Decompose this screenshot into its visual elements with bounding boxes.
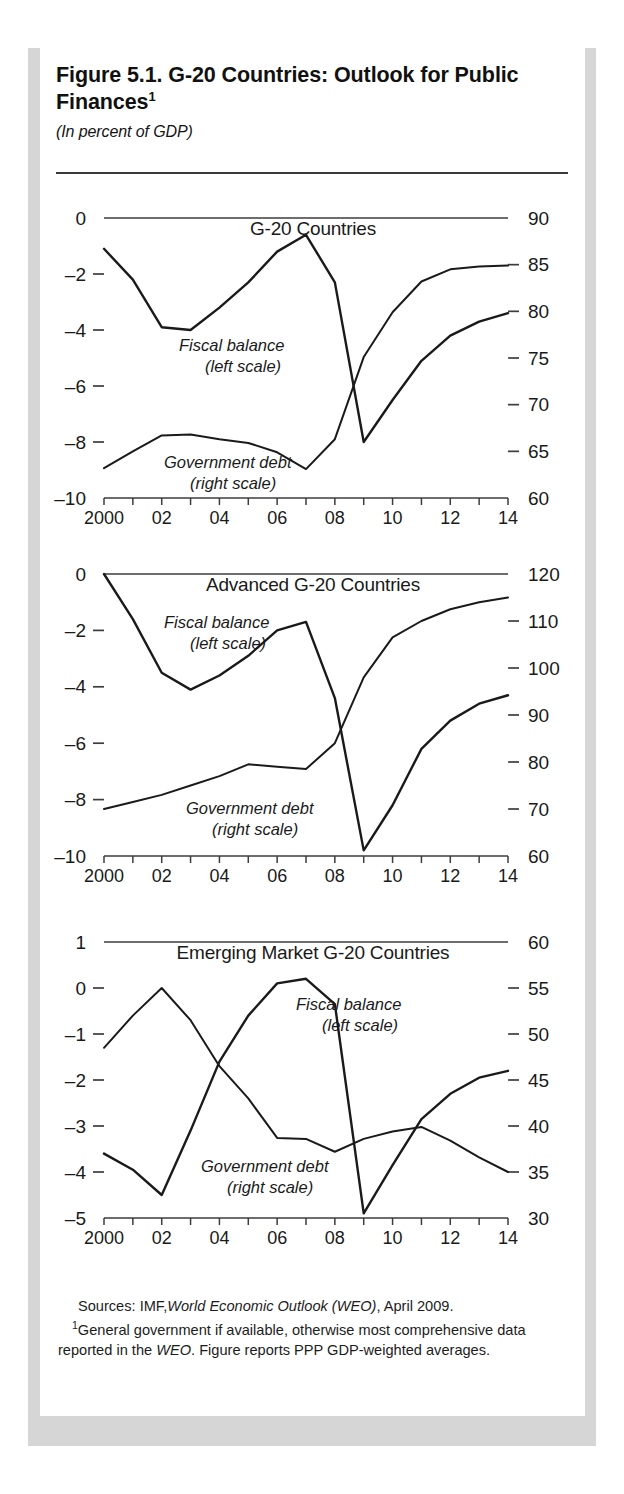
series-line-government-debt bbox=[104, 988, 508, 1172]
figure-footnotes: Sources: IMF,World Economic Outlook (WEO… bbox=[58, 1296, 558, 1361]
y-tick-label-right: 30 bbox=[528, 1208, 549, 1229]
government-debt-label: Government debt bbox=[201, 1157, 330, 1175]
x-tick-label: 10 bbox=[383, 508, 403, 528]
sources-publication: World Economic Outlook (WEO) bbox=[167, 1298, 376, 1314]
x-tick-label: 06 bbox=[267, 1228, 287, 1248]
y-tick-label-left: –10 bbox=[54, 488, 86, 509]
y-tick-label-left: –4 bbox=[65, 676, 87, 697]
x-tick-label: 02 bbox=[152, 866, 172, 886]
y-tick-label-left: 0 bbox=[75, 978, 86, 999]
x-tick-label: 12 bbox=[440, 1228, 460, 1248]
sources-line: Sources: IMF,World Economic Outlook (WEO… bbox=[58, 1296, 558, 1317]
chart-svg-2: 20000204060810121410–1–2–3–4–56055504540… bbox=[46, 914, 580, 1266]
y-tick-label-right: 90 bbox=[528, 705, 549, 726]
fiscal-balance-label: Fiscal balance bbox=[179, 336, 284, 354]
x-tick-label: 04 bbox=[209, 1228, 229, 1248]
y-tick-label-right: 60 bbox=[528, 846, 549, 867]
figure-page: Figure 5.1. G-20 Countries: Outlook for … bbox=[0, 0, 624, 1494]
y-tick-label-left: –6 bbox=[65, 733, 86, 754]
government-debt-label: Government debt bbox=[164, 453, 293, 471]
footnote-1: 1General government if available, otherw… bbox=[58, 1318, 558, 1361]
y-tick-label-right: 65 bbox=[528, 441, 549, 462]
x-tick-label: 2000 bbox=[84, 866, 124, 886]
y-tick-label-left: –4 bbox=[65, 320, 87, 341]
x-tick-label: 06 bbox=[267, 866, 287, 886]
y-tick-label-right: 60 bbox=[528, 488, 549, 509]
y-tick-label-right: 85 bbox=[528, 254, 549, 275]
x-tick-label: 2000 bbox=[84, 1228, 124, 1248]
x-tick-label: 14 bbox=[498, 1228, 518, 1248]
panel-title-g20: G-20 Countries bbox=[46, 218, 580, 240]
chart-panel-advanced-g20: 2000020406081012140–2–4–6–8–101201101009… bbox=[46, 556, 580, 904]
fiscal-balance-label: Fiscal balance bbox=[296, 995, 401, 1013]
x-tick-label: 04 bbox=[209, 508, 229, 528]
x-tick-label: 14 bbox=[498, 866, 518, 886]
y-tick-label-left: –6 bbox=[65, 376, 86, 397]
y-tick-label-left: –3 bbox=[65, 1116, 86, 1137]
fiscal-balance-label: Fiscal balance bbox=[164, 613, 269, 631]
title-divider bbox=[56, 172, 568, 174]
chart-panel-g20: 2000020406081012140–2–4–6–8–109085807570… bbox=[46, 196, 580, 546]
y-tick-label-right: 55 bbox=[528, 978, 549, 999]
x-tick-label: 2000 bbox=[84, 508, 124, 528]
y-tick-label-left: –2 bbox=[65, 620, 86, 641]
series-line-government-debt bbox=[104, 266, 508, 469]
fiscal-balance-scale-label: (left scale) bbox=[190, 634, 266, 652]
x-tick-label: 14 bbox=[498, 508, 518, 528]
y-tick-label-right: 35 bbox=[528, 1162, 549, 1183]
y-tick-label-right: 80 bbox=[528, 301, 549, 322]
footnote-text-b: . Figure reports PPP GDP-weighted averag… bbox=[191, 1342, 490, 1358]
y-tick-label-right: 75 bbox=[528, 348, 549, 369]
figure-subtitle: (In percent of GDP) bbox=[56, 123, 572, 141]
x-tick-label: 02 bbox=[152, 508, 172, 528]
y-tick-label-right: 100 bbox=[528, 658, 560, 679]
x-tick-label: 10 bbox=[383, 1228, 403, 1248]
y-tick-label-right: 40 bbox=[528, 1116, 549, 1137]
chart-panel-emerging-g20: 20000204060810121410–1–2–3–4–56055504540… bbox=[46, 914, 580, 1266]
x-tick-label: 12 bbox=[440, 866, 460, 886]
x-tick-label: 08 bbox=[325, 866, 345, 886]
figure-title: Figure 5.1. G-20 Countries: Outlook for … bbox=[56, 62, 572, 117]
y-tick-label-left: –2 bbox=[65, 264, 86, 285]
y-tick-label-left: –4 bbox=[65, 1162, 87, 1183]
figure-header: Figure 5.1. G-20 Countries: Outlook for … bbox=[56, 62, 572, 141]
footnote-weo-italic: WEO bbox=[156, 1342, 191, 1358]
sources-label: Sources: bbox=[78, 1298, 136, 1314]
y-tick-label-left: –1 bbox=[65, 1024, 86, 1045]
x-tick-label: 08 bbox=[325, 508, 345, 528]
y-tick-label-left: –10 bbox=[54, 846, 86, 867]
x-tick-label: 08 bbox=[325, 1228, 345, 1248]
sources-text-b: , April 2009. bbox=[376, 1298, 453, 1314]
y-tick-label-right: 70 bbox=[528, 799, 549, 820]
figure-title-superscript: 1 bbox=[148, 89, 155, 104]
y-tick-label-left: –8 bbox=[65, 432, 86, 453]
figure-title-text: Figure 5.1. G-20 Countries: Outlook for … bbox=[56, 63, 518, 114]
chart-svg-1: 2000020406081012140–2–4–6–8–101201101009… bbox=[46, 556, 580, 904]
y-tick-label-right: 70 bbox=[528, 394, 549, 415]
y-tick-label-right: 110 bbox=[528, 611, 558, 632]
x-tick-label: 10 bbox=[383, 866, 403, 886]
government-debt-scale-label: (right scale) bbox=[190, 474, 276, 492]
sources-text-a: IMF, bbox=[140, 1298, 168, 1314]
government-debt-scale-label: (right scale) bbox=[227, 1178, 313, 1196]
panel-title-emerging-g20: Emerging Market G-20 Countries bbox=[46, 942, 580, 964]
y-tick-label-left: –2 bbox=[65, 1070, 86, 1091]
x-tick-label: 02 bbox=[152, 1228, 172, 1248]
fiscal-balance-scale-label: (left scale) bbox=[322, 1016, 398, 1034]
government-debt-label: Government debt bbox=[186, 799, 315, 817]
x-tick-label: 04 bbox=[209, 866, 229, 886]
y-tick-label-right: 50 bbox=[528, 1024, 549, 1045]
government-debt-scale-label: (right scale) bbox=[212, 820, 298, 838]
series-line-fiscal-balance bbox=[104, 235, 508, 442]
x-tick-label: 06 bbox=[267, 508, 287, 528]
x-tick-label: 12 bbox=[440, 508, 460, 528]
fiscal-balance-scale-label: (left scale) bbox=[205, 357, 281, 375]
y-tick-label-left: –8 bbox=[65, 789, 86, 810]
y-tick-label-left: –5 bbox=[65, 1208, 86, 1229]
chart-svg-0: 2000020406081012140–2–4–6–8–109085807570… bbox=[46, 196, 580, 546]
panel-title-advanced-g20: Advanced G-20 Countries bbox=[46, 574, 580, 596]
y-tick-label-right: 45 bbox=[528, 1070, 549, 1091]
y-tick-label-right: 80 bbox=[528, 752, 549, 773]
